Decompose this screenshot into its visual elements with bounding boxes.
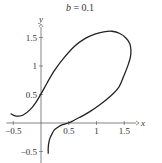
- x-tick-label: 0.5: [63, 126, 75, 136]
- y-tick-label: 1.5: [26, 33, 38, 43]
- y-axis-label: y: [38, 14, 43, 24]
- y-tick-label: 0.5: [26, 90, 38, 100]
- x-tick-label: 1.5: [119, 126, 131, 136]
- y-tick-label: 1: [33, 61, 38, 71]
- x-tick-label: 1: [94, 126, 99, 136]
- plot-area: b = 0.1 −0.50.511.5−0.50.511.5 x y: [0, 0, 162, 163]
- y-axis-arrow-icon: [39, 24, 43, 27]
- x-axis-label: x: [140, 118, 145, 128]
- chart-title: b = 0.1: [66, 2, 94, 13]
- y-tick-label: −0.5: [21, 147, 38, 157]
- chart: b = 0.1 −0.50.511.5−0.50.511.5 x y: [0, 0, 162, 163]
- x-axis-arrow-icon: [136, 121, 139, 125]
- x-tick-label: −0.5: [5, 126, 22, 136]
